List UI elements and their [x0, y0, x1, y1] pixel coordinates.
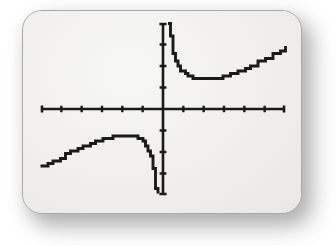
- calculator-screen[interactable]: [22, 10, 302, 214]
- screenshot-stage: [0, 0, 336, 246]
- curve-branch-right: [168, 24, 286, 79]
- function-graph: [23, 11, 302, 214]
- graph-layer: [41, 23, 286, 195]
- screen-lcd-surface: [23, 11, 301, 213]
- curve-branch-left: [41, 136, 159, 194]
